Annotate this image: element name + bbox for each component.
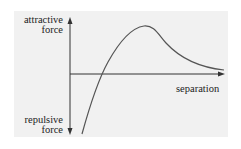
attractive-label-line2: force (24, 25, 63, 35)
attractive-force-label: attractive force (24, 15, 63, 35)
separation-label: separation (176, 84, 219, 94)
repulsive-force-label: repulsive force (25, 115, 64, 135)
down-arrow-icon (68, 128, 73, 135)
up-arrow-icon (68, 17, 73, 24)
right-arrow-icon (218, 72, 225, 77)
repulsive-label-line2: force (25, 125, 64, 135)
force-curve (82, 26, 224, 134)
